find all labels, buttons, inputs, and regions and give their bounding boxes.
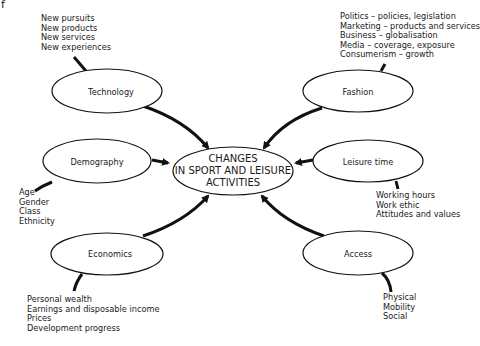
- node-leisure-time: Leisure time: [313, 140, 423, 182]
- demography-label: Demography: [70, 157, 123, 167]
- factor-item: Social: [383, 312, 416, 322]
- access-label: Access: [344, 249, 372, 259]
- node-technology: Technology: [52, 69, 162, 113]
- factor-item: Ethnicity: [19, 217, 55, 227]
- demography-factors: Age Gender Class Ethnicity: [19, 188, 55, 226]
- access-factors: Physical Mobility Social: [383, 293, 416, 322]
- node-access: Access: [303, 231, 413, 275]
- factor-item: Development progress: [27, 324, 159, 334]
- economics-tail: [74, 274, 82, 291]
- economics-label: Economics: [88, 249, 132, 259]
- fashion-label: Fashion: [343, 87, 374, 97]
- access-arrow: [262, 196, 324, 236]
- economics-arrow: [143, 196, 208, 236]
- center-line-1: CHANGES: [208, 153, 257, 164]
- technology-tail: [74, 57, 86, 71]
- node-fashion: Fashion: [303, 70, 413, 112]
- leisure-time-label: Leisure time: [343, 157, 394, 167]
- node-economics: Economics: [51, 233, 163, 275]
- economics-factors: Personal wealth Earnings and disposable …: [27, 295, 159, 333]
- technology-factors: New pursuits New products New services N…: [41, 14, 111, 52]
- factor-item: Attitudes and values: [376, 210, 460, 220]
- center-node: CHANGES IN SPORT AND LEISURE ACTIVITIES: [173, 147, 293, 195]
- fashion-tail: [381, 64, 385, 71]
- center-line-3: ACTIVITIES: [206, 177, 260, 188]
- node-demography: Demography: [43, 139, 151, 183]
- center-line-2: IN SPORT AND LEISURE: [175, 165, 291, 176]
- factor-item: Consumerism – growth: [340, 50, 480, 60]
- technology-label: Technology: [87, 87, 134, 97]
- leisure-arrow: [296, 160, 313, 163]
- fashion-arrow: [264, 108, 322, 148]
- leisure-tail: [396, 181, 398, 189]
- access-tail: [382, 273, 391, 292]
- factor-item: New experiences: [41, 43, 111, 53]
- demography-arrow: [152, 160, 168, 163]
- technology-arrow: [143, 106, 208, 148]
- leisure-time-factors: Working hours Work ethic Attitudes and v…: [376, 191, 460, 220]
- fashion-factors: Politics – policies, legislation Marketi…: [340, 12, 480, 60]
